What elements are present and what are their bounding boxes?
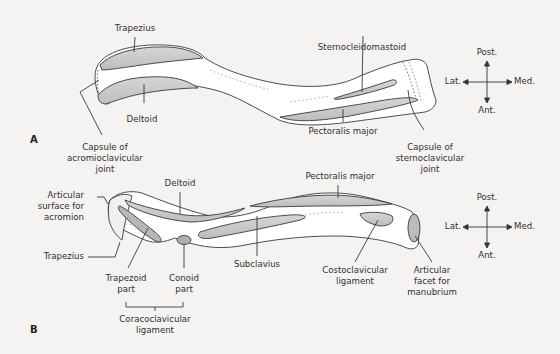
label-capsule-sternoclavicular-joint: Capsule of sternoclavicular joint (396, 142, 464, 175)
panel-label-b: B (30, 324, 38, 335)
label-articular-facet-manubrium: Articular facet for manubrium (407, 265, 457, 298)
clavicle-diagram: A Trapezius Deltoid Capsule of acromiocl… (0, 0, 560, 354)
label-deltoid-b: Deltoid (165, 178, 196, 189)
label-pectoralis-major-b: Pectoralis major (305, 171, 374, 182)
muscle-pectoralis-major-b (250, 195, 392, 207)
panel-label-a: A (30, 134, 38, 145)
compass-a-post: Post. (477, 47, 498, 58)
compass-b-lat: Lat. (445, 221, 461, 232)
label-sternocleidomastoid: Sternocleidomastoid (318, 42, 406, 53)
label-coracoclavicular-ligament: Coracoclavicular ligament (119, 314, 190, 336)
label-trapezius-a: Trapezius (115, 23, 155, 34)
compass-b-post: Post. (477, 192, 498, 203)
bracket-coracoclavicular (126, 302, 183, 307)
orientation-compass-a (463, 61, 512, 103)
articular-facet-manubrium (408, 214, 420, 242)
compass-a-ant: Ant. (478, 105, 495, 116)
label-subclavius: Subclavius (234, 259, 280, 270)
label-trapezoid-part: Trapezoid part (105, 273, 146, 295)
leader-articular-facet-manubrium (415, 236, 432, 262)
compass-a-lat: Lat. (445, 76, 461, 87)
label-pectoralis-major-a: Pectoralis major (308, 126, 377, 137)
label-trapezius-b: Trapezius (44, 251, 84, 262)
label-conoid-part: Conoid part (169, 273, 199, 295)
label-costoclavicular-ligament: Costoclavicular ligament (322, 265, 388, 287)
ligament-conoid-part (177, 236, 191, 245)
label-articular-surface-acromion: Articular surface for acromion (38, 190, 84, 223)
leader-articular-surface-acromion (97, 197, 108, 204)
label-capsule-acromioclavicular-joint: Capsule of acromioclavicular joint (67, 142, 143, 175)
compass-a-med: Med. (514, 76, 535, 87)
compass-b-ant: Ant. (478, 250, 495, 261)
leader-trapezius-b (88, 242, 120, 257)
label-deltoid-a: Deltoid (127, 114, 158, 125)
orientation-compass-b (463, 206, 512, 248)
compass-b-med: Med. (514, 221, 535, 232)
